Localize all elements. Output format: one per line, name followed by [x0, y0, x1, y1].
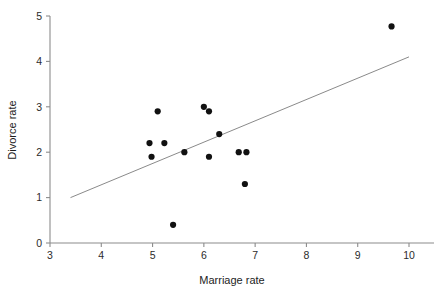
y-tick-label: 4	[36, 55, 42, 67]
data-point	[236, 149, 242, 155]
data-point	[206, 154, 212, 160]
x-tick-label: 8	[304, 249, 310, 261]
y-tick-label: 3	[36, 101, 42, 113]
y-tick-label: 2	[36, 146, 42, 158]
axis-tick-labels: 345678910012345	[36, 10, 415, 261]
data-point	[242, 181, 248, 187]
data-point	[146, 140, 152, 146]
data-point	[243, 149, 249, 155]
x-tick-label: 4	[98, 249, 104, 261]
data-points	[146, 23, 394, 228]
x-tick-label: 10	[403, 249, 415, 261]
x-tick-label: 7	[252, 249, 258, 261]
data-point	[155, 108, 161, 114]
x-tick-label: 3	[47, 249, 53, 261]
y-tick-label: 0	[36, 237, 42, 249]
data-point	[148, 154, 154, 160]
plot-area: 345678910012345 Marriage rate Divorce ra…	[0, 0, 434, 293]
data-point	[181, 149, 187, 155]
data-point	[170, 222, 176, 228]
data-point	[161, 140, 167, 146]
trend-line	[71, 57, 409, 198]
data-point	[216, 131, 222, 137]
data-point	[201, 104, 207, 110]
x-tick-label: 5	[150, 249, 156, 261]
y-tick-label: 1	[36, 191, 42, 203]
data-point	[206, 108, 212, 114]
x-tick-label: 6	[201, 249, 207, 261]
data-point	[388, 23, 394, 29]
y-tick-label: 5	[36, 10, 42, 22]
axes	[50, 16, 434, 243]
y-axis-title: Divorce rate	[6, 100, 18, 159]
regression-line	[71, 57, 409, 198]
x-tick-label: 9	[355, 249, 361, 261]
scatter-chart: 345678910012345 Marriage rate Divorce ra…	[0, 0, 434, 293]
x-axis-title: Marriage rate	[199, 274, 264, 286]
axis-ticks	[46, 16, 409, 247]
